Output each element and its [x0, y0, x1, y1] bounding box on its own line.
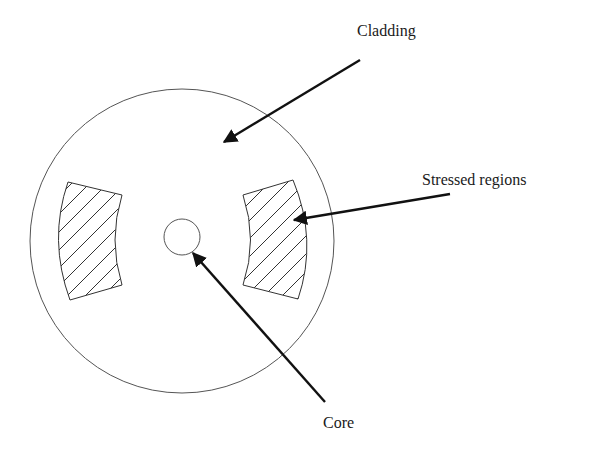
stressed-regions-label: Stressed regions	[422, 171, 526, 189]
stressed-region-left	[40, 155, 150, 349]
stressed-region-right	[230, 162, 326, 320]
fiber-cross-section-diagram: Cladding Stressed regions Core	[0, 0, 589, 453]
cladding-label: Cladding	[357, 22, 416, 40]
core-label: Core	[323, 414, 354, 431]
cladding-circle	[30, 89, 334, 393]
core-circle	[164, 219, 200, 255]
cladding-arrow	[224, 60, 360, 142]
stressed-regions-arrow	[294, 194, 450, 220]
core-arrow	[193, 253, 325, 402]
